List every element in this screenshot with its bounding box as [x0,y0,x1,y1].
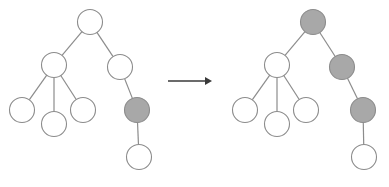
right-tree-nodes [233,10,377,170]
tree-edge [252,75,270,100]
tree-node-right-child [330,55,355,80]
tree-node-leaf-middle [265,112,290,137]
tree-node-right-child [108,55,133,80]
tree-node-leaf-middle [42,112,67,137]
tree-edge [285,32,305,56]
tree-node-root [301,10,326,35]
tree-node-leaf-right [294,98,319,123]
tree-edge [97,32,113,56]
tree-node-left-child [42,53,67,78]
tree-edge [347,78,357,99]
tree-edge [61,76,76,100]
tree-node-root [78,10,103,35]
tree-node-leaf-left [10,98,35,123]
tree-edge [29,75,47,100]
tree-edge [320,33,335,57]
tree-node-left-child [265,53,290,78]
diagram-canvas [0,0,389,187]
tree-node-highlighted [125,98,150,123]
transform-arrow [168,77,212,85]
arrow-head-icon [205,77,212,85]
tree-node-leaf-right [71,98,96,123]
tree-edge [125,79,133,99]
tree-transformation-figure [0,0,389,187]
tree-node-highlighted [351,98,376,123]
tree-edge [284,76,299,100]
tree-node-leaf-left [233,98,258,123]
tree-edge [62,32,82,56]
tree-node-leaf-bottom [127,145,152,170]
tree-edge [138,122,139,144]
tree-node-leaf-bottom [352,145,377,170]
